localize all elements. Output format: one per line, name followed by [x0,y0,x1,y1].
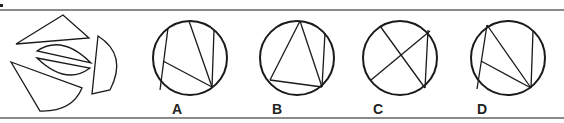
option-d-figure[interactable] [471,21,545,95]
option-c-figure[interactable] [363,21,437,95]
piece-half-disc [92,36,117,94]
option-a-label[interactable]: A [172,101,182,117]
option-b-label[interactable]: B [272,101,282,117]
prompt-pieces [11,15,117,111]
option-b-figure[interactable] [260,21,334,95]
option-c-label[interactable]: C [373,101,383,117]
option-d-label[interactable]: D [477,101,487,117]
piece-sector [11,62,82,111]
option-a-figure[interactable] [153,21,227,95]
piece-triangle [16,15,89,44]
piece-lens-upper [37,45,91,63]
